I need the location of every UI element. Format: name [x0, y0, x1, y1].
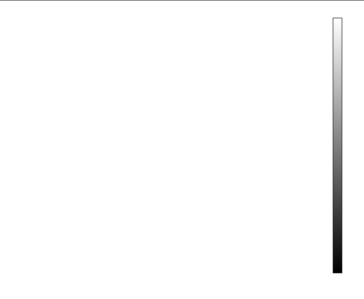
- colorbar: [333, 18, 342, 273]
- surface-plot: [0, 0, 364, 299]
- colorbar-gradient: [333, 18, 342, 273]
